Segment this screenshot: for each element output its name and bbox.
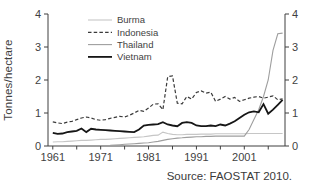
legend-label: Burma [117, 14, 146, 25]
legend-item-indonesia: Indonesia [88, 27, 159, 38]
y-axis-tick-label-left: 1 [35, 107, 41, 119]
y-axis-tick-label-right: 3 [292, 41, 298, 53]
legend-label: Vietnam [117, 51, 152, 62]
plot-frame [48, 14, 285, 146]
legend-item-thailand: Thailand [88, 39, 153, 50]
x-axis-tick-label: 2001 [232, 151, 256, 163]
legend-label: Indonesia [117, 27, 159, 38]
y-axis-tick-label-left: 2 [35, 74, 41, 86]
x-axis-tick-label: 1961 [41, 151, 65, 163]
y-axis-tick-label-right: 0 [292, 140, 298, 152]
y-axis-tick-label-right: 4 [292, 8, 298, 20]
x-axis-tick-label: 1981 [136, 151, 160, 163]
x-axis-tick-label: 1971 [88, 151, 112, 163]
series-line-burma [53, 132, 283, 142]
legend-item-burma: Burma [88, 14, 146, 25]
x-axis-tick-label: 1991 [184, 151, 208, 163]
y-axis-label: Tonnes/hectare [2, 14, 16, 146]
chart-figure: 001122334419611971198119912001BurmaIndon… [0, 0, 319, 194]
series-line-indonesia [53, 76, 283, 124]
legend-item-vietnam: Vietnam [88, 51, 152, 62]
y-axis-tick-label-left: 4 [35, 8, 41, 20]
y-axis-tick-label-left: 3 [35, 41, 41, 53]
yield-line-chart: 001122334419611971198119912001BurmaIndon… [0, 0, 319, 194]
legend-label: Thailand [117, 39, 153, 50]
y-axis-tick-label-right: 2 [292, 74, 298, 86]
y-axis-tick-label-right: 1 [292, 107, 298, 119]
legend: BurmaIndonesiaThailandVietnam [88, 14, 159, 62]
y-axis-tick-label-left: 0 [35, 140, 41, 152]
source-note: Source: FAOSTAT 2010. [167, 170, 292, 182]
